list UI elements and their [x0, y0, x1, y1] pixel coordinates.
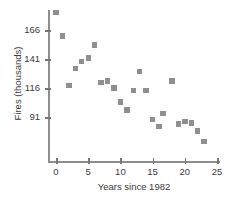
data-point [86, 55, 91, 60]
y-axis-title: Fires (thousands) [12, 24, 23, 144]
data-point [156, 124, 161, 129]
x-axis-title: Years since 1982 [48, 181, 220, 192]
x-tick-label: 20 [173, 167, 197, 177]
x-tick-label: 25 [205, 167, 229, 177]
x-tick-label: 5 [76, 167, 100, 177]
scatter-plot-screenshot: 91116141166 0510152025 Years since 1982 … [0, 0, 233, 201]
data-point [60, 33, 65, 38]
y-tick [45, 59, 51, 61]
x-tick-label: 15 [141, 167, 165, 177]
x-tick [88, 158, 90, 164]
data-point [66, 83, 71, 88]
y-tick [45, 88, 51, 90]
data-point [176, 121, 181, 126]
x-tick [217, 158, 219, 164]
data-point [92, 42, 97, 47]
data-point [195, 128, 200, 133]
data-point [169, 78, 174, 83]
x-tick [120, 158, 122, 164]
data-point [160, 111, 165, 116]
data-point [131, 88, 136, 93]
chart-plot-area: 91116141166 0510152025 Years since 1982 … [0, 0, 233, 201]
data-point [105, 78, 110, 83]
y-axis-line [48, 10, 50, 162]
data-point [98, 80, 103, 85]
x-tick-label: 10 [108, 167, 132, 177]
data-point [182, 119, 187, 124]
y-tick [45, 30, 51, 32]
y-tick [45, 117, 51, 119]
x-tick-label: 0 [44, 167, 68, 177]
data-point [189, 120, 194, 125]
data-point [143, 88, 148, 93]
data-point [201, 139, 206, 144]
data-point [137, 69, 142, 74]
data-point [73, 66, 78, 71]
x-tick [56, 158, 58, 164]
data-point [79, 59, 84, 64]
data-point [118, 99, 123, 104]
data-point [53, 10, 58, 15]
x-tick [153, 158, 155, 164]
data-point [150, 117, 155, 122]
x-tick [185, 158, 187, 164]
data-point [124, 107, 129, 112]
data-point [111, 85, 116, 90]
x-axis-line [48, 161, 220, 163]
